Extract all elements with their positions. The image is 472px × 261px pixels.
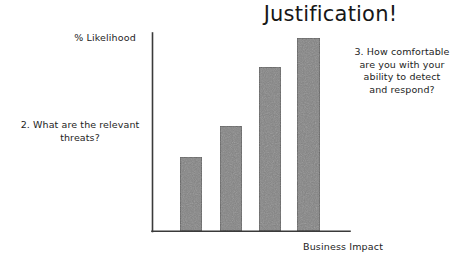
bar-4 bbox=[297, 38, 320, 231]
callout-threats-line-2: threats? bbox=[4, 132, 156, 145]
callout-threats-line-1: 2. What are the relevant bbox=[4, 119, 156, 132]
callout-threats: 2. What are the relevant threats? bbox=[4, 119, 156, 144]
callout-comfort-line-2: are you with your bbox=[334, 59, 470, 72]
callout-comfort: 3. How comfortable are you with your abi… bbox=[334, 46, 470, 96]
bar-1 bbox=[180, 157, 202, 231]
callout-comfort-line-3: ability to detect bbox=[334, 71, 470, 84]
callout-comfort-line-1: 3. How comfortable bbox=[334, 46, 470, 59]
callout-comfort-line-4: and respond? bbox=[334, 84, 470, 97]
bar-series bbox=[180, 38, 320, 231]
x-axis-label: Business Impact bbox=[283, 241, 403, 253]
bar-2 bbox=[220, 126, 242, 231]
slide-canvas: Justification! bbox=[0, 0, 472, 261]
y-axis-label: % Likelihood bbox=[62, 32, 148, 44]
bar-3 bbox=[259, 67, 281, 231]
